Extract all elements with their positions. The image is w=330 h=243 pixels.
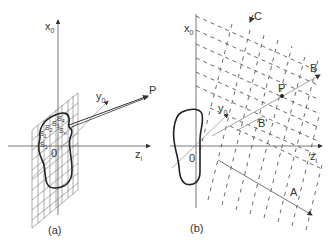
label-A: A <box>290 186 298 198</box>
label-P-b: P <box>278 82 285 94</box>
label-origin-b: 0 <box>189 152 195 164</box>
diagram-canvas: x0 y0 zi P 0 S4 S3 S2 S1 Sn S1 <box>0 0 330 243</box>
point-P <box>280 94 284 98</box>
label-C: C <box>254 10 262 22</box>
svg-text:y0: y0 <box>218 102 228 116</box>
ray-A <box>218 160 312 215</box>
panel-b: x0 y0 zi P 0 A B B' C <box>170 10 322 230</box>
svg-text:zi: zi <box>310 150 318 164</box>
label-B-prime: B' <box>258 117 267 129</box>
svg-text:S1: S1 <box>40 141 48 150</box>
svg-text:y0: y0 <box>96 90 106 104</box>
svg-text:x0: x0 <box>45 20 55 34</box>
label-P: P <box>149 84 156 96</box>
object-outline-b <box>173 109 202 184</box>
svg-text:Sn: Sn <box>59 127 67 136</box>
caption-a: (a) <box>48 224 61 236</box>
label-origin: 0 <box>51 147 57 159</box>
svg-text:x0: x0 <box>184 22 194 36</box>
ray-C <box>250 15 253 22</box>
ray-to-P <box>69 96 148 125</box>
wavefront-field <box>196 16 320 168</box>
caption-b: (b) <box>190 222 203 234</box>
svg-text:zi: zi <box>135 148 143 162</box>
panel-a: x0 y0 zi P 0 S4 S3 S2 S1 Sn S1 <box>8 20 156 228</box>
label-B: B <box>310 62 317 74</box>
